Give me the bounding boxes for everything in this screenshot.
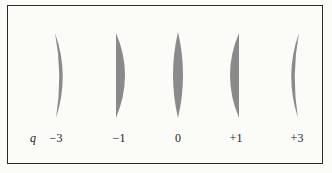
lens-q-minus-3 (55, 33, 63, 118)
q-label-plus-1: +1 (230, 131, 243, 146)
lens-q-minus-1 (116, 33, 125, 118)
q-label-0: 0 (175, 131, 181, 146)
lens-q-plus-3 (291, 33, 299, 118)
lens-shapes (0, 0, 332, 173)
q-label-minus-3: −3 (50, 131, 63, 146)
variable-label-q: q (30, 131, 36, 146)
q-label-minus-1: −1 (113, 131, 126, 146)
q-label-plus-3: +3 (291, 131, 304, 146)
lens-q-plus-1 (230, 33, 239, 118)
lens-q-0 (173, 32, 183, 118)
